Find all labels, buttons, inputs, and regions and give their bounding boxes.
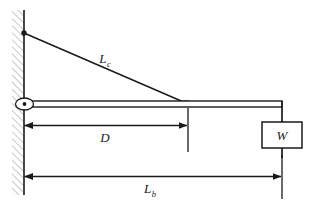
- beam-member: [24, 101, 282, 107]
- label-beam-length: Lb: [143, 181, 156, 199]
- label-beam-length-subscript: b: [152, 189, 156, 199]
- pin-joint-center-dot: [23, 102, 27, 106]
- label-distance-d: D: [99, 130, 110, 145]
- pin-joint-group: [16, 98, 34, 110]
- cable-group: [21, 30, 189, 106]
- beam-group: [24, 101, 282, 107]
- label-cable-subscript: c: [107, 59, 111, 69]
- cable-line: [24, 33, 187, 104]
- label-weight: W: [277, 128, 289, 143]
- diagram-canvas: Lc D Lb W: [0, 0, 318, 214]
- cable-wall-anchor-dot: [21, 30, 26, 35]
- label-cable: Lc: [98, 51, 111, 69]
- label-beam-length-base: L: [143, 181, 151, 196]
- beam-cable-diagram: Lc D Lb W: [0, 0, 318, 214]
- label-cable-base: L: [98, 51, 106, 66]
